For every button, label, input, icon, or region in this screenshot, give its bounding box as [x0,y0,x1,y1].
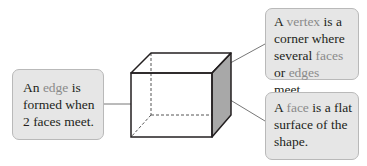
edge-callout: An edge is formed when 2 faces meet. [12,69,104,140]
face-term: face [286,100,308,115]
edges-term: edges [289,65,320,80]
vertex-text-pre: A [274,14,286,29]
vertex-term: vertex [286,14,320,29]
shaded-side-face [212,53,231,137]
face-callout: A face is a flat surface of the shape. [265,92,359,160]
edge-text-pre: An [23,80,43,95]
face-text-pre: A [274,100,286,115]
vertex-text-mid2: or [274,65,289,80]
vertex-callout: A vertex is a corner where several faces… [265,8,359,80]
front-face [131,73,212,137]
edge-term: edge [43,80,68,95]
faces-term: faces [316,48,344,63]
